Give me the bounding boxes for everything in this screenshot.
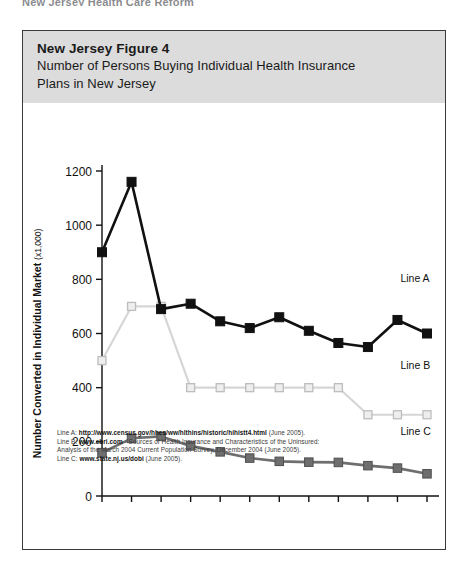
page-root: New Jersey Health Care Reform New Jersey…: [0, 0, 466, 585]
data-point: [364, 411, 372, 419]
y-axis-tick-label: 1200: [65, 165, 92, 179]
page-top-cut-text: New Jersey Health Care Reform: [22, 0, 322, 6]
data-point: [393, 464, 402, 473]
data-point: [304, 326, 313, 335]
data-point: [246, 384, 254, 392]
y-axis-tick-label: 0: [85, 490, 92, 504]
series-line-a: [98, 177, 432, 351]
series-line: [102, 182, 427, 347]
data-point: [98, 248, 107, 257]
data-point: [393, 315, 402, 324]
y-axis-tick-label: 600: [72, 327, 92, 341]
footnote-line-b-cont: Analysis of the March 2004 Current Popul…: [57, 446, 429, 455]
data-point: [245, 324, 254, 333]
data-point: [393, 411, 401, 419]
footnote-a-date: (June 2005).: [269, 429, 305, 436]
figure-subtitle-line1: Number of Persons Buying Individual Heal…: [37, 57, 431, 75]
data-point: [423, 411, 431, 419]
y-axis-title: Number Converted in Individual Market (x…: [31, 229, 43, 459]
figure-footnotes: Line A: http://www.census.gov/hhes/ww/hl…: [57, 429, 429, 463]
data-point: [275, 384, 283, 392]
footnote-b-desc: - Sources of Health Insurance and Charac…: [125, 438, 320, 445]
data-point: [363, 343, 372, 352]
y-axis-tick-label: 800: [72, 273, 92, 287]
figure-container: New Jersey Figure 4 Number of Persons Bu…: [22, 30, 446, 550]
data-point: [334, 384, 342, 392]
y-axis-tick-label: 1000: [65, 219, 92, 233]
figure-title: New Jersey Figure 4: [37, 40, 431, 57]
footnote-line-b: Line B: www.ebri.com - Sources of Health…: [57, 438, 429, 447]
footnote-b-label: Line B:: [57, 438, 77, 445]
x-axis: '92'93'94'95'96'97'98'99'00'01'02'03: [96, 496, 439, 503]
footnote-c-date: (June 2005).: [146, 455, 182, 462]
data-point: [157, 305, 166, 314]
data-point: [216, 317, 225, 326]
y-axis-title-text: Number Converted in Individual Market (x…: [31, 229, 43, 459]
data-point: [423, 329, 432, 338]
footnote-line-a: Line A: http://www.census.gov/hhes/ww/hl…: [57, 429, 429, 438]
data-point: [334, 338, 343, 347]
data-point: [128, 302, 136, 310]
series-line-b: [98, 302, 431, 418]
footnote-a-label: Line A:: [57, 429, 77, 436]
footnote-b-desc-cont: Analysis of the March 2004 Current Popul…: [57, 446, 301, 453]
data-point: [305, 384, 313, 392]
data-point: [187, 384, 195, 392]
data-point: [186, 299, 195, 308]
figure-header: New Jersey Figure 4 Number of Persons Bu…: [23, 31, 445, 103]
footnote-c-label: Line C:: [57, 455, 78, 462]
footnote-b-source[interactable]: www.ebri.com: [79, 438, 123, 445]
series-label-line-b: Line B: [400, 359, 430, 371]
series-label-line-a: Line A: [400, 272, 429, 284]
footnote-a-source[interactable]: http://www.census.gov/hhes/ww/hlthins/hi…: [79, 429, 267, 436]
data-point: [216, 384, 224, 392]
chart-area: Number Converted in Individual Market (x…: [23, 103, 445, 549]
y-axis-tick-label: 400: [72, 381, 92, 395]
figure-subtitle-line2: Plans in New Jersey: [37, 75, 431, 93]
footnote-c-source[interactable]: www.state.nj.us/dobi: [79, 455, 143, 462]
data-point: [275, 313, 284, 322]
footnote-line-c: Line C: www.state.nj.us/dobi (June 2005)…: [57, 455, 429, 464]
data-point: [423, 470, 432, 479]
data-point: [98, 357, 106, 365]
data-point: [127, 177, 136, 186]
